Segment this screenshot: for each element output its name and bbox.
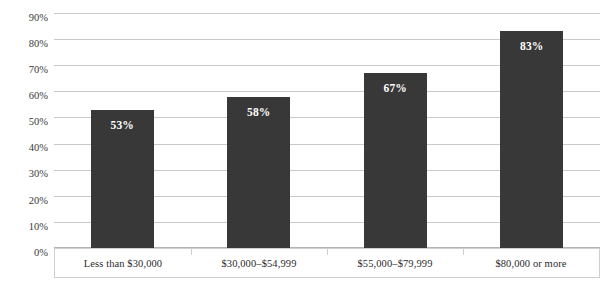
bar-slot: 58%	[191, 13, 328, 248]
bar-chart: 90% 80% 70% 60% 50% 40% 30% 20% 10% 0% 5…	[0, 0, 608, 282]
plot-area: 53% 58% 67% 83%	[54, 13, 600, 248]
bar[interactable]: 53%	[91, 110, 154, 248]
y-axis-tick-label: 90%	[29, 12, 48, 23]
y-axis-tick-label: 10%	[29, 221, 48, 232]
y-axis-tick-label: 60%	[29, 90, 48, 101]
bar[interactable]: 67%	[364, 73, 427, 248]
y-axis-tick-label: 30%	[29, 168, 48, 179]
bar-slot: 67%	[327, 13, 464, 248]
bar-value-label: 83%	[520, 40, 544, 52]
y-axis-tick-label: 80%	[29, 38, 48, 49]
y-axis-tick-label: 40%	[29, 142, 48, 153]
x-axis-category-label: Less than $30,000	[55, 249, 191, 277]
bars-layer: 53% 58% 67% 83%	[54, 13, 600, 248]
x-axis-category-label: $55,000–$79,999	[327, 249, 463, 277]
bar[interactable]: 83%	[500, 31, 563, 248]
bar[interactable]: 58%	[227, 97, 290, 248]
x-axis-category-band: Less than $30,000 $30,000–$54,999 $55,00…	[54, 248, 600, 278]
bar-value-label: 67%	[383, 82, 407, 94]
y-axis-tick-label: 0%	[34, 247, 48, 258]
x-axis-category-label: $30,000–$54,999	[191, 249, 327, 277]
x-axis-category-label: $80,000 or more	[463, 249, 599, 277]
y-axis-tick-label: 20%	[29, 195, 48, 206]
bar-value-label: 53%	[110, 119, 134, 131]
bar-value-label: 58%	[247, 106, 271, 118]
bar-slot: 53%	[54, 13, 191, 248]
y-axis-tick-label: 50%	[29, 116, 48, 127]
bar-slot: 83%	[464, 13, 601, 248]
y-axis-tick-label: 70%	[29, 64, 48, 75]
